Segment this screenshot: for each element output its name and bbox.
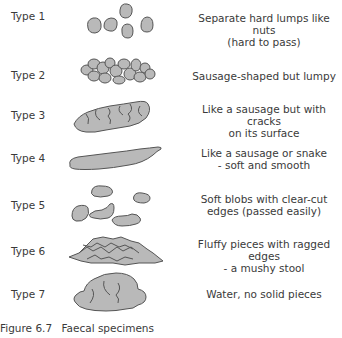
type-label: Type 7 [11,288,45,300]
type-1-description: Separate hard lumps like nuts (hard to p… [188,12,340,48]
type-7-description: Water, no solid pieces [188,288,340,300]
smooth-snake-icon [67,145,167,175]
fluffy-pieces-icon [67,233,167,267]
figure-caption: Figure 6.7 Faecal specimens [0,322,154,334]
caption-number: Figure 6.7 [0,322,52,334]
type-3-description: Like a sausage but with cracks on its su… [188,103,340,139]
watery-icon [70,271,160,315]
caption-text: Faecal specimens [61,322,154,334]
type-6-description: Fluffy pieces with ragged edges - a mush… [188,238,340,274]
type-label: Type 1 [11,10,45,22]
lumpy-sausage-icon [80,56,160,86]
type-label: Type 2 [11,69,45,81]
type-2-description: Sausage-shaped but lumpy [188,70,340,82]
type-5-description: Soft blobs with clear-cut edges (passed … [188,193,340,217]
type-label: Type 6 [11,245,45,257]
type-label: Type 5 [11,199,45,211]
cracked-sausage-icon [72,98,162,134]
soft-blobs-icon [70,184,170,232]
separate-lumps-icon [78,2,178,42]
type-4-description: Like a sausage or snake - soft and smoot… [188,147,340,171]
type-label: Type 3 [11,109,45,121]
type-label: Type 4 [11,152,45,164]
